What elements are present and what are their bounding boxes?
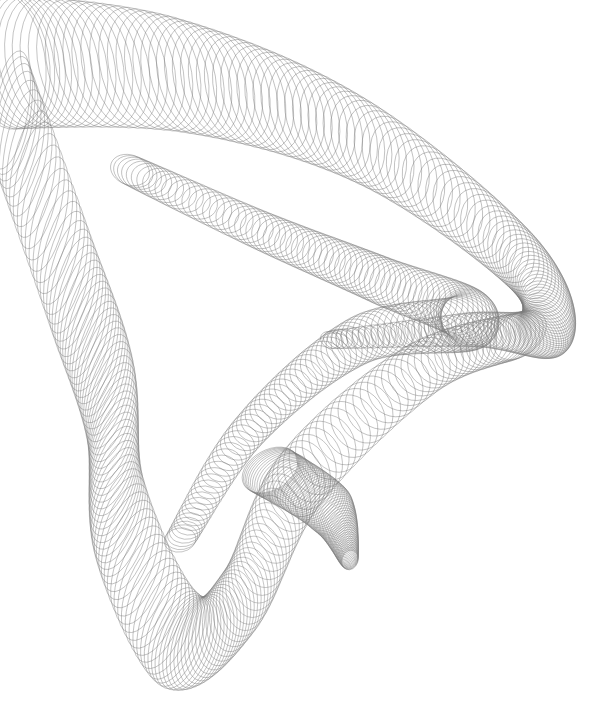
- loop: [193, 574, 253, 670]
- loop: [365, 253, 438, 324]
- loop: [201, 444, 247, 487]
- loop: [287, 337, 348, 398]
- loop: [365, 117, 458, 227]
- loop: [323, 381, 393, 457]
- loop: [100, 511, 173, 623]
- loop: [302, 324, 365, 387]
- loop: [0, 0, 77, 136]
- loop: [0, 97, 56, 220]
- loop: [121, 155, 171, 199]
- loop: [335, 242, 405, 310]
- loop: [128, 7, 230, 142]
- loop: [115, 544, 189, 655]
- loop: [282, 342, 342, 402]
- loop: [287, 68, 384, 187]
- loop: [176, 494, 216, 530]
- loop: [181, 583, 245, 682]
- loop: [349, 105, 443, 217]
- loop: [88, 478, 160, 590]
- loop: [292, 333, 354, 394]
- loop: [441, 178, 529, 279]
- loop: [162, 173, 215, 222]
- loop: [222, 199, 280, 253]
- loop: [109, 150, 157, 193]
- loop: [228, 201, 287, 256]
- loop: [97, 502, 170, 614]
- loop: [373, 123, 466, 232]
- loop: [326, 238, 394, 304]
- loop: [352, 356, 424, 431]
- loop: [28, 187, 89, 308]
- loop: [226, 403, 277, 452]
- loop: [59, 0, 162, 136]
- loop: [215, 419, 264, 466]
- loop: [309, 395, 378, 471]
- loop: [17, 153, 77, 275]
- line-art-canvas: [0, 0, 599, 705]
- loop: [0, 60, 43, 184]
- loop: [420, 160, 510, 264]
- ribbon-left-fold: [0, 48, 556, 697]
- loop: [337, 368, 408, 443]
- loop: [208, 431, 256, 476]
- loop: [65, 297, 130, 415]
- loop: [211, 425, 259, 471]
- loop: [21, 165, 81, 287]
- ribbon-right-flap: [234, 438, 364, 572]
- loop: [67, 303, 133, 421]
- loop: [454, 189, 541, 288]
- loop: [167, 514, 205, 546]
- loop: [13, 141, 73, 263]
- loop: [111, 536, 185, 647]
- loop: [149, 168, 201, 216]
- loop: [315, 234, 382, 299]
- loop: [320, 236, 388, 302]
- loop: [179, 488, 220, 524]
- loop: [0, 0, 71, 136]
- loop: [330, 375, 401, 451]
- loop: [316, 388, 386, 464]
- loop: [143, 11, 245, 145]
- loop: [162, 525, 198, 554]
- loop: [330, 240, 399, 307]
- loop: [205, 563, 262, 654]
- harmonograph-ribbons: [0, 0, 587, 697]
- loop: [72, 323, 138, 440]
- loop: [151, 14, 253, 147]
